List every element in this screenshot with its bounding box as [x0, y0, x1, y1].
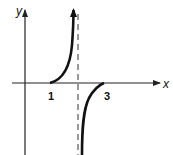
x-tick-label-1: 1 — [48, 90, 54, 102]
graph-svg: y x 1 3 — [0, 0, 173, 155]
function-graph-diagram: y x 1 3 — [0, 0, 173, 155]
left-branch-curve — [50, 10, 74, 83]
x-axis-label: x — [162, 77, 170, 91]
right-branch-curve — [82, 83, 104, 155]
x-tick-label-3: 3 — [104, 90, 110, 102]
y-axis-label: y — [15, 4, 23, 18]
